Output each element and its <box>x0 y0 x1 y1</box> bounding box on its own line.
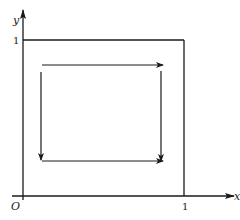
y-tick-label: 1 <box>13 35 19 46</box>
origin-label: O <box>11 200 20 213</box>
x-axis-label: x <box>234 190 240 203</box>
y-axis-label: y <box>12 14 20 27</box>
x-tick-label: 1 <box>182 201 188 212</box>
unit-square <box>23 40 184 196</box>
flow-diagram: y 1 O 1 x <box>0 0 240 220</box>
